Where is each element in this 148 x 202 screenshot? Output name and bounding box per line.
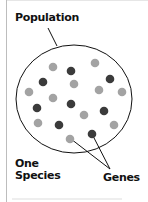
genes-label: Genes <box>103 172 140 184</box>
population-label: Population <box>15 12 79 24</box>
pointer-line-genes <box>71 139 110 169</box>
dark-gene-dot <box>39 78 48 87</box>
dark-gene-dot <box>67 67 76 76</box>
dark-gene-dot <box>67 100 76 109</box>
dark-gene-dot <box>55 121 64 130</box>
light-gene-dot <box>110 121 119 130</box>
pointer-line-population <box>48 28 57 46</box>
light-gene-dot <box>91 59 100 68</box>
light-gene-dot <box>49 94 58 103</box>
pointer-lines <box>48 28 110 169</box>
light-gene-dot <box>34 119 43 128</box>
faint-caption-line <box>12 198 122 200</box>
light-gene-dot <box>118 88 127 97</box>
population-boundary <box>16 45 132 153</box>
dark-gene-dot <box>106 75 115 84</box>
gene-dots <box>25 59 127 144</box>
light-gene-dot <box>95 86 104 95</box>
one-species-label: One Species <box>15 158 60 182</box>
light-gene-dot <box>66 135 75 144</box>
dark-gene-dot <box>33 104 42 113</box>
light-gene-dot <box>80 111 89 120</box>
dark-gene-dot <box>88 130 97 139</box>
light-gene-dot <box>70 80 79 89</box>
species-label-line2: Species <box>15 170 60 182</box>
pointer-line-genes <box>92 134 110 169</box>
light-gene-dot <box>25 88 34 97</box>
dark-gene-dot <box>100 107 109 116</box>
light-gene-dot <box>49 63 58 72</box>
